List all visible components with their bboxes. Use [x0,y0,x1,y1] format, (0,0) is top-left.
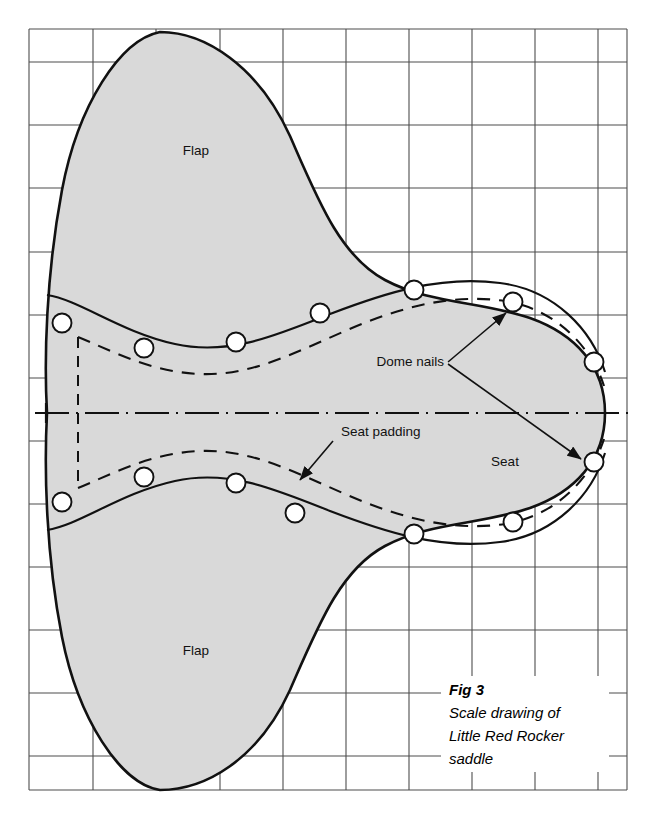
caption-line-1: Scale drawing of [449,704,562,721]
scale-drawing-figure: Flap Flap Seat Seat padding Dome nails F… [0,0,653,819]
dome-nail-icon [53,314,72,333]
caption-line-2: Little Red Rocker [449,727,565,744]
dome-nail-icon [585,453,604,472]
dome-nail-icon [227,474,246,493]
dome-nail-icon [504,513,523,532]
caption-line-3: saddle [449,750,493,767]
dome-nail-icon [135,468,154,487]
dome-nail-icon [311,304,330,323]
dome-nail-icon [53,493,72,512]
dome-nail-icon [585,353,604,372]
label-seat: Seat [491,454,519,469]
label-dome-nails: Dome nails [376,354,444,369]
dome-nail-icon [405,281,424,300]
caption-title: Fig 3 [449,681,485,698]
dome-nail-icon [504,293,523,312]
figure-page: Flap Flap Seat Seat padding Dome nails F… [0,0,653,819]
label-flap-top: Flap [183,143,209,158]
dome-nail-icon [405,525,424,544]
dome-nail-icon [135,339,154,358]
label-seat-padding: Seat padding [341,424,421,439]
label-flap-bottom: Flap [183,643,209,658]
dome-nail-icon [286,504,305,523]
dome-nail-icon [227,333,246,352]
